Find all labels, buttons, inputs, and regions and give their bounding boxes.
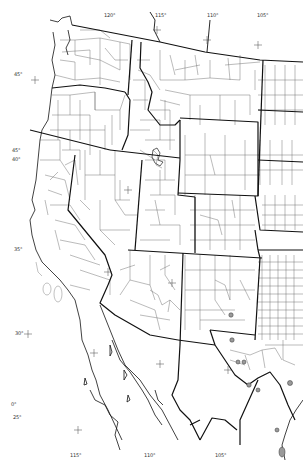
latitude-label-35: 35°: [14, 246, 22, 252]
longitude-label-105-bottom: 105°: [215, 452, 226, 458]
marker: [229, 313, 233, 317]
longitude-label-110-top: 110°: [207, 12, 218, 18]
marker: [230, 338, 234, 342]
latitude-label-30: 30°: [15, 330, 23, 336]
map-background: [0, 0, 303, 472]
marker: [288, 381, 293, 386]
longitude-label-105-top: 105°: [257, 12, 268, 18]
latitude-label-45: 45°: [14, 71, 22, 77]
longitude-label-115-top: 115°: [155, 12, 166, 18]
western-us-county-map: [0, 0, 303, 472]
longitude-label-110-bottom: 110°: [144, 452, 155, 458]
marker: [279, 447, 285, 457]
marker: [256, 388, 260, 392]
marker: [242, 360, 246, 364]
latitude-label-25: 25°: [13, 414, 21, 420]
marker: [247, 383, 251, 387]
latitude-label-40: 40°: [12, 156, 20, 162]
marker: [236, 360, 240, 364]
latitude-label-0: 0°: [11, 401, 16, 407]
longitude-label-120-top: 120°: [104, 12, 115, 18]
marker: [275, 428, 279, 432]
longitude-label-115-bottom: 115°: [70, 452, 81, 458]
latitude-label-45b: 45°: [12, 147, 20, 153]
